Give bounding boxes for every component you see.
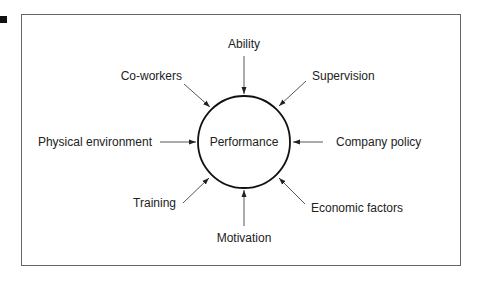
supervision-label: Supervision (312, 69, 375, 83)
ability-label: Ability (228, 37, 260, 51)
performance-diagram: Performance AbilitySupervisionCompany po… (0, 0, 482, 281)
training-label: Training (133, 196, 176, 210)
company-policy-label: Company policy (336, 135, 421, 149)
physical-environment-label: Physical environment (38, 135, 153, 149)
center-label: Performance (210, 135, 279, 149)
motivation-label: Motivation (217, 231, 272, 245)
training-arrow (183, 178, 209, 203)
economic-factors-label: Economic factors (311, 201, 403, 215)
co-workers-label: Co-workers (121, 69, 182, 83)
supervision-arrow (279, 81, 306, 106)
economic-factors-arrow (279, 178, 305, 204)
co-workers-arrow (184, 84, 210, 107)
